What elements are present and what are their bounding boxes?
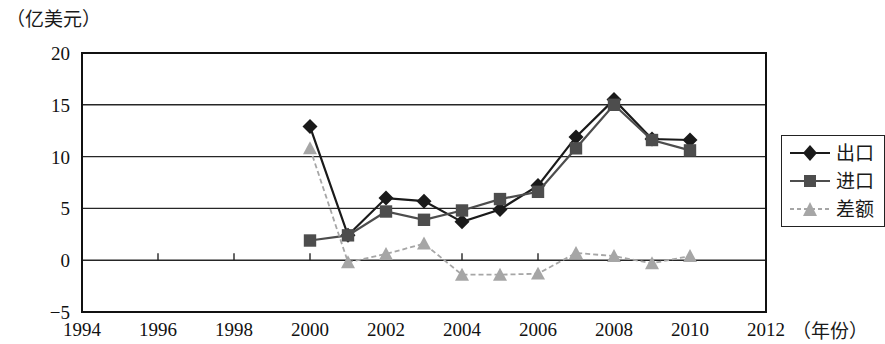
diamond-icon	[788, 142, 832, 164]
data-point-差额-2008	[607, 249, 621, 262]
data-point-进口-2006	[532, 186, 544, 198]
legend: 出口 进口 差额	[781, 135, 885, 227]
series-出口	[303, 92, 698, 243]
x-tick-label-1994: 1994	[63, 319, 102, 340]
legend-item-imports: 进口	[788, 168, 874, 194]
data-point-进口-2008	[608, 99, 620, 111]
x-tick-label-2002: 2002	[367, 319, 405, 340]
series-进口	[304, 99, 696, 247]
data-point-差额-2003	[417, 237, 431, 250]
x-tick-label-2004: 2004	[443, 319, 482, 340]
y-tick-label-10: 10	[51, 147, 70, 168]
legend-item-balance: 差额	[788, 196, 874, 222]
plot-border	[82, 53, 766, 312]
data-point-进口-2010	[684, 144, 696, 156]
triangle-icon	[788, 198, 832, 220]
square-icon	[788, 170, 832, 192]
data-point-进口-2009	[646, 134, 658, 146]
data-point-差额-2001	[341, 255, 355, 268]
data-point-差额-2006	[531, 267, 545, 280]
data-point-进口-2004	[456, 204, 468, 216]
x-tick-label-2010: 2010	[671, 319, 709, 340]
x-tick-label-1998: 1998	[215, 319, 253, 340]
x-tick-label-1996: 1996	[139, 319, 177, 340]
series-line-进口	[310, 105, 690, 241]
data-point-进口-2005	[494, 193, 506, 205]
y-tick-labels: −505101520	[50, 43, 70, 323]
legend-item-exports: 出口	[788, 140, 874, 166]
data-point-差额-2007	[569, 246, 583, 259]
y-tick-label-15: 15	[51, 95, 70, 116]
y-tick-label-0: 0	[61, 250, 71, 271]
plot-frame	[82, 53, 766, 312]
data-point-进口-2000	[304, 234, 316, 246]
x-tick-labels: 1994199619982000200220042006200820102012	[63, 319, 785, 340]
data-point-进口-2001	[342, 229, 354, 241]
data-point-出口-2003	[417, 194, 432, 209]
y-tick-label-5: 5	[61, 198, 71, 219]
x-tick-label-2012: 2012	[747, 319, 785, 340]
x-tick-label-2000: 2000	[291, 319, 329, 340]
data-point-进口-2002	[380, 205, 392, 217]
x-tick-label-2006: 2006	[519, 319, 557, 340]
y-tick-label-20: 20	[51, 43, 70, 64]
data-point-差额-2010	[683, 249, 697, 262]
data-point-进口-2007	[570, 142, 582, 154]
legend-label-imports: 进口	[836, 172, 874, 191]
legend-label-balance: 差额	[836, 200, 874, 219]
data-series-layer	[303, 92, 698, 281]
legend-label-exports: 出口	[836, 144, 874, 163]
data-point-进口-2003	[418, 214, 430, 226]
data-point-出口-2000	[303, 119, 318, 134]
x-tick-label-2008: 2008	[595, 319, 633, 340]
